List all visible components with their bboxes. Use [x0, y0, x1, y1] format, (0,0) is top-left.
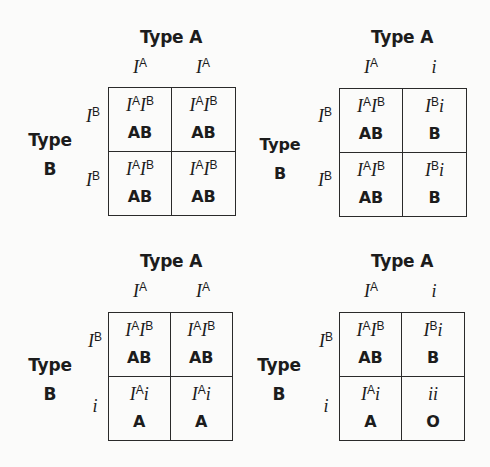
row-parent-label: TypeB — [246, 130, 314, 188]
punnett-cell: IBiB — [403, 153, 466, 217]
punnett-cell: IBiB — [403, 89, 466, 153]
row-allele-2: i — [313, 396, 339, 417]
column-allele-2: IA — [187, 57, 219, 78]
row-allele-1: IB — [312, 106, 338, 127]
punnett-cell: IBiB — [402, 313, 464, 377]
punnett-grid: IAIBAB IBiB IAIBAB IBiB — [339, 88, 467, 217]
row-parent-label: TypeB — [14, 126, 86, 184]
column-allele-1: IA — [355, 281, 387, 302]
punnett-cell: iiO — [402, 377, 464, 441]
punnett-cell: IAIBAB — [172, 88, 235, 152]
punnett-cell: IAIBAB — [340, 153, 403, 217]
row-allele-1: IB — [313, 331, 339, 352]
row-allele-1: IB — [80, 106, 106, 127]
column-allele-2: i — [418, 57, 450, 78]
punnett-cell: IAIBAB — [109, 88, 172, 152]
column-parent-label: Type A — [121, 27, 221, 47]
row-allele-2: IB — [80, 170, 106, 191]
punnett-cell: IAIBAB — [109, 313, 171, 377]
punnett-cell: IAIBAB — [340, 313, 402, 377]
punnett-grid: IAIBAB IBiB IAiA iiO — [339, 312, 465, 441]
column-allele-2: i — [418, 281, 450, 302]
column-allele-1: IA — [124, 57, 156, 78]
column-parent-label: Type A — [352, 251, 452, 271]
punnett-cell: IAiA — [109, 377, 171, 441]
punnett-cell: IAiA — [340, 377, 402, 441]
punnett-cell: IAIBAB — [171, 313, 233, 377]
column-parent-label: Type A — [121, 251, 221, 271]
punnett-grid: IAIBAB IAIBAB IAIBAB IAIBAB — [108, 87, 236, 216]
row-allele-1: IB — [82, 331, 108, 352]
row-parent-label: TypeB — [244, 351, 314, 409]
punnett-cell: IAIBAB — [109, 152, 172, 216]
row-parent-label: TypeB — [14, 351, 86, 409]
punnett-grid: IAIBAB IAIBAB IAiA IAiA — [108, 312, 233, 441]
column-parent-label: Type A — [352, 27, 452, 47]
column-allele-1: IA — [124, 281, 156, 302]
punnett-cell: IAIBAB — [172, 152, 235, 216]
row-allele-2: IB — [312, 170, 338, 191]
row-allele-2: i — [82, 396, 108, 417]
column-allele-1: IA — [355, 57, 387, 78]
punnett-cell: IAiA — [171, 377, 233, 441]
punnett-cell: IAIBAB — [340, 89, 403, 153]
column-allele-2: IA — [187, 281, 219, 302]
